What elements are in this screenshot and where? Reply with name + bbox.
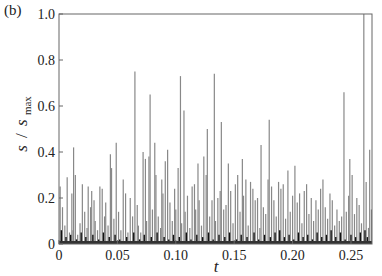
svg-text:s / s max: s / s max: [12, 96, 33, 152]
y-tick-label: 0.2: [38, 191, 56, 206]
y-tick-label: 1.0: [38, 7, 56, 22]
x-tick-label: 0: [56, 248, 63, 263]
x-tick-label: 0.05: [105, 248, 130, 263]
y-label-s: s: [12, 145, 31, 152]
y-axis-label: s / s max: [12, 96, 33, 152]
data-bars: [59, 14, 372, 244]
x-tick-label: 0.10: [164, 248, 189, 263]
y-tick-label: 0.4: [38, 145, 56, 160]
y-label-slash: /: [12, 133, 31, 138]
x-tick-label: 0.20: [280, 248, 305, 263]
y-tick-label: 0.8: [38, 53, 56, 68]
x-tick-label: 0.15: [222, 248, 247, 263]
y-label-sub: max: [21, 96, 33, 115]
y-tick-label: 0: [48, 237, 55, 252]
y-label-smax: s: [12, 119, 31, 126]
y-tick-label: 0.6: [38, 99, 56, 114]
x-tick-label: 0.25: [339, 248, 364, 263]
x-axis-label: t: [214, 257, 220, 276]
spike-chart: 00.20.40.60.81.0 00.050.100.150.200.25 t…: [0, 0, 382, 276]
